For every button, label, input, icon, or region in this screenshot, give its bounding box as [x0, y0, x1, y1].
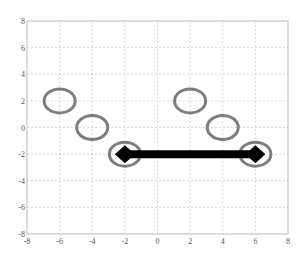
- x-tick-label: -4: [89, 237, 96, 246]
- y-tick-label: -4: [18, 177, 25, 186]
- y-tick-label: 4: [21, 70, 25, 79]
- y-tick-label: 6: [21, 44, 25, 53]
- y-tick-label: 0: [21, 124, 25, 133]
- y-tick-label: -8: [18, 230, 25, 239]
- y-tick-label: -2: [18, 150, 25, 159]
- x-tick-label: 4: [221, 237, 225, 246]
- y-tick-label: -6: [18, 203, 25, 212]
- x-tick-label: -2: [122, 237, 129, 246]
- y-axis-ticks: -8-6-4-202468: [18, 17, 25, 239]
- grid-lines: [27, 21, 288, 234]
- x-axis-ticks: -8-6-4-202468: [24, 237, 290, 246]
- x-tick-label: -6: [56, 237, 63, 246]
- y-tick-label: 8: [21, 17, 25, 26]
- x-tick-label: 2: [188, 237, 192, 246]
- scatter-chart: -8-6-4-202468 -8-6-4-202468: [0, 0, 305, 260]
- diamond-marker: [115, 145, 135, 163]
- x-tick-label: 8: [286, 237, 290, 246]
- x-tick-label: 6: [253, 237, 257, 246]
- y-tick-label: 2: [21, 97, 25, 106]
- diamond-marker: [245, 145, 265, 163]
- x-tick-label: 0: [156, 237, 160, 246]
